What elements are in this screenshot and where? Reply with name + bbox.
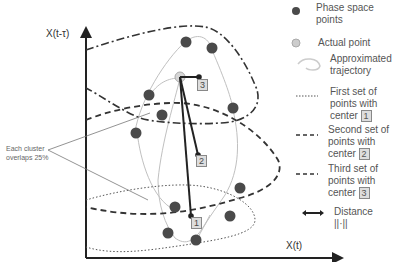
dotted-line-icon xyxy=(296,94,318,98)
trajectory xyxy=(135,37,238,242)
legend-center-3: 3 xyxy=(359,187,370,199)
x-axis-label: X(t) xyxy=(286,240,302,251)
light-dot-icon xyxy=(290,37,302,49)
legend-label-third-set: Third set of points with center 3 xyxy=(328,163,394,199)
legend-label-trajectory: Approximated trajectory xyxy=(330,53,394,77)
center-box-3: 3 xyxy=(197,79,208,91)
overlap-pointer-lines xyxy=(48,113,150,200)
phase-space-points xyxy=(131,37,246,246)
double-arrow-icon xyxy=(302,209,324,217)
legend-label-second-set: Second set of points with center 2 xyxy=(328,124,394,160)
dark-dot-icon xyxy=(290,5,302,17)
overlap-note: Each cluster overlaps 25% xyxy=(6,144,50,162)
legend-label-phase-space: Phase space points xyxy=(316,2,391,26)
legend-center-2: 2 xyxy=(359,148,370,160)
distance-lines xyxy=(180,75,201,218)
dashed-line-icon xyxy=(296,133,318,137)
legend-label-actual: Actual point xyxy=(318,37,370,49)
legend-label-distance: Distance ||·|| xyxy=(334,206,373,230)
y-axis-label: X(t-τ) xyxy=(46,28,69,39)
dash-dot-line-icon xyxy=(296,172,318,176)
center-box-1: 1 xyxy=(191,217,202,229)
legend-center-1: 1 xyxy=(361,110,372,122)
center-box-2: 2 xyxy=(196,155,207,167)
trajectory-curve-icon xyxy=(296,56,324,74)
legend-label-first-set: First set of points with center 1 xyxy=(330,86,394,122)
